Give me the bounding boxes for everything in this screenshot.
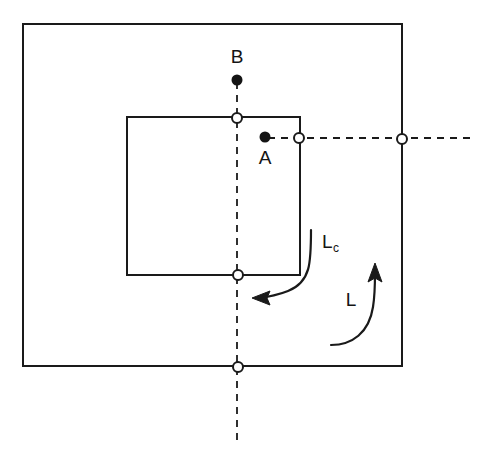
point-a-label: A: [259, 147, 272, 168]
open-circle-inner-right: [294, 133, 304, 143]
point-b-label: B: [231, 46, 244, 67]
open-circle-outer-bottom: [233, 362, 243, 372]
open-circle-outer-right: [397, 134, 407, 144]
inner-square: [127, 117, 300, 275]
outer-square: [23, 24, 402, 366]
open-circle-inner-bottom: [233, 270, 243, 280]
point-a-marker: [260, 132, 271, 143]
geometry-diagram: B A L c L: [0, 0, 498, 457]
diagram-canvas: B A L c L: [0, 0, 498, 457]
lc-arrowhead: [252, 291, 270, 305]
point-b-marker: [232, 75, 243, 86]
lc-label: L: [322, 231, 333, 252]
open-circle-inner-top: [232, 113, 242, 123]
lc-arrow-curve: [258, 230, 311, 298]
lc-label-subscript: c: [333, 241, 339, 255]
l-label: L: [346, 289, 357, 310]
